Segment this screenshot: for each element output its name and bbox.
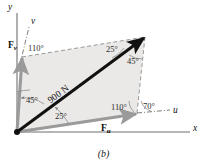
angle-70-u-label: 70°: [143, 102, 155, 111]
component-v-subscript: v: [14, 44, 17, 52]
component-u-label: Fu: [101, 124, 111, 135]
origin-point: [14, 129, 20, 135]
angle-45-tip-label: 45°: [127, 57, 139, 66]
angle-45-v-resultant-label: 45°: [26, 96, 38, 105]
force-parallelogram-figure: y x u v Fv Fu 900 N 110° 45° 25° 25° 45°…: [0, 0, 207, 165]
angle-110-v-label: 110°: [28, 44, 44, 53]
component-u-subscript: u: [107, 127, 111, 135]
x-axis-label: x: [193, 124, 197, 134]
u-axis-label: u: [173, 106, 178, 116]
figure-caption: (b): [0, 148, 207, 159]
angle-25-top-label: 25°: [106, 45, 118, 54]
y-axis-label: y: [8, 3, 12, 13]
v-axis-label: v: [31, 17, 35, 27]
angle-25-resultant-u-label: 25°: [55, 112, 67, 121]
component-v-label: Fv: [8, 41, 17, 52]
angle-110-u-label: 110°: [111, 103, 127, 112]
